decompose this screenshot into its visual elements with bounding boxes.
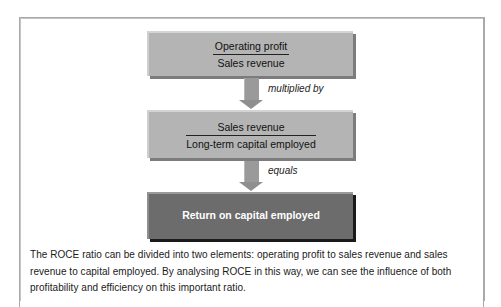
- numerator: Sales revenue: [186, 121, 316, 136]
- connector-multiplied-by: multiplied by: [268, 83, 324, 94]
- down-arrow-icon: [244, 161, 259, 191]
- operating-profit-ratio-box: Operating profit Sales revenue: [147, 31, 353, 76]
- connector-equals: equals: [268, 165, 297, 176]
- figure-caption: The ROCE ratio can be divided into two e…: [30, 247, 482, 297]
- fraction: Sales revenue Long-term capital employed: [186, 121, 316, 150]
- frame-border-right: [484, 17, 485, 301]
- denominator: Long-term capital employed: [186, 136, 316, 150]
- sales-revenue-ratio-box: Sales revenue Long-term capital employed: [147, 110, 353, 158]
- roce-result-box: Return on capital employed: [147, 192, 353, 239]
- frame-border-inner-top: [20, 18, 483, 19]
- denominator: Sales revenue: [213, 55, 289, 69]
- fraction: Operating profit Sales revenue: [213, 40, 289, 69]
- numerator: Operating profit: [213, 40, 289, 55]
- frame-border-inner-left: [20, 18, 21, 301]
- down-arrow-icon: [244, 78, 259, 109]
- roce-label: Return on capital employed: [182, 209, 320, 221]
